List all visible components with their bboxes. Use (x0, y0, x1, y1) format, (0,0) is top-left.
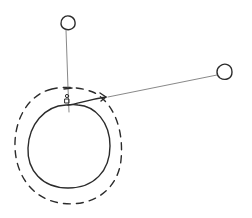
inner-solid-circle (28, 105, 110, 188)
crossbar-tick (64, 88, 72, 89)
right-node-circle (217, 64, 232, 79)
top-node-circle (61, 16, 75, 30)
diagram-canvas (0, 0, 252, 218)
right-connector-line (108, 75, 217, 97)
sketch-svg (0, 0, 252, 218)
